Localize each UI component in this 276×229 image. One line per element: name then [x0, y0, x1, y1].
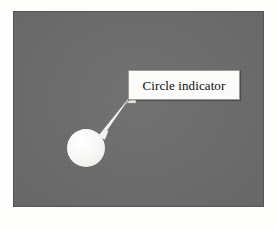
- callout-box[interactable]: Circle indicator: [128, 70, 240, 100]
- callout-arrow: [13, 11, 264, 207]
- desktop-border: [13, 11, 264, 207]
- desktop-background[interactable]: Circle indicator: [13, 11, 264, 207]
- circle-object[interactable]: [67, 129, 105, 167]
- figure-canvas: Circle indicator: [0, 0, 276, 229]
- callout-label: Circle indicator: [143, 79, 226, 92]
- paper-margin-bottom: [0, 217, 276, 229]
- desktop-texture-overlay: [13, 11, 264, 207]
